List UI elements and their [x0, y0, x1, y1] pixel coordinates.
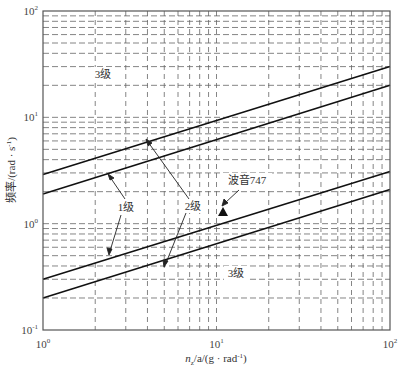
- x-tick-label: 100: [36, 337, 51, 350]
- y-tick-label: 10-1: [21, 323, 38, 336]
- label-level2: 2级: [185, 200, 202, 212]
- x-axis-label: nz/a/(g · rad-1): [185, 352, 247, 367]
- x-tick-label: 102: [383, 337, 398, 350]
- label-level1: 1级: [118, 201, 135, 213]
- x-tick-label: 101: [209, 337, 224, 350]
- y-tick-label: 101: [24, 110, 39, 123]
- label-level3-bottom: 3级: [228, 267, 245, 279]
- y-tick-label: 102: [24, 4, 39, 17]
- boeing-747-marker: [218, 207, 228, 216]
- frequency-chart: 10010110210-1100101102 频率/(rad · s-1) nz…: [0, 0, 407, 371]
- label-boeing-747: 波音747: [228, 173, 267, 186]
- y-tick-label: 100: [24, 217, 39, 230]
- label-level3-top: 3级: [95, 68, 112, 80]
- y-axis-label: 频率/(rad · s-1): [4, 137, 18, 203]
